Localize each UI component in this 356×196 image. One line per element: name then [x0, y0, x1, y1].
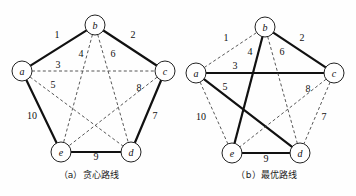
node-label-c: c [163, 66, 168, 77]
edge-a-d-dashed [30, 77, 123, 146]
edge-weight-a-b: 1 [224, 32, 229, 43]
edge-weight-a-c: 3 [233, 60, 238, 71]
edge-weight-c-d: 7 [153, 110, 158, 121]
edge-weight-b-c: 2 [131, 29, 136, 40]
figure-container: 12345678910abcde （a）贪心路线 12345678910abcd… [0, 0, 356, 196]
edge-weight-c-e: 8 [137, 82, 142, 93]
node-label-b: b [263, 22, 268, 33]
edge-weight-a-c: 3 [56, 59, 61, 70]
node-label-e: e [59, 147, 64, 158]
edge-weight-e-d: 9 [264, 153, 269, 164]
node-label-c: c [332, 68, 337, 79]
edge-weight-c-d: 7 [322, 111, 327, 122]
edge-weight-a-d: 5 [51, 79, 56, 90]
edge-layer [200, 33, 330, 153]
node-label-a: a [20, 66, 25, 77]
panel-greedy-route: 12345678910abcde （a）贪心路线 [0, 0, 178, 196]
edge-weight-a-e: 10 [196, 111, 206, 122]
edge-weight-b-d: 6 [280, 46, 285, 57]
edge-weight-e-d: 9 [94, 151, 99, 162]
edge-label-layer: 12345678910 [196, 32, 327, 164]
graph-b: 12345678910abcde [178, 0, 356, 170]
edge-weight-b-d: 6 [111, 48, 116, 59]
edge-weight-b-e: 4 [79, 48, 84, 59]
node-label-e: e [230, 148, 235, 159]
node-layer: abcde [12, 15, 175, 162]
caption-panel-b: （b）最优路线 [178, 168, 356, 181]
edge-weight-a-b: 1 [55, 29, 60, 40]
edge-label-layer: 12345678910 [27, 29, 158, 162]
graph-a: 12345678910abcde [0, 0, 178, 170]
panel-optimal-route: 12345678910abcde （b）最优路线 [178, 0, 356, 196]
node-label-a: a [194, 68, 199, 79]
caption-panel-a: （a）贪心路线 [0, 168, 178, 181]
edge-c-e-dashed [240, 79, 326, 147]
node-layer: abcde [186, 17, 344, 163]
edge-weight-b-c: 2 [300, 32, 305, 43]
node-label-b: b [93, 20, 98, 31]
edge-weight-a-d: 5 [223, 81, 228, 92]
edge-weight-a-e: 10 [27, 110, 37, 121]
edge-weight-b-e: 4 [248, 46, 253, 57]
edge-weight-c-e: 8 [306, 83, 311, 94]
